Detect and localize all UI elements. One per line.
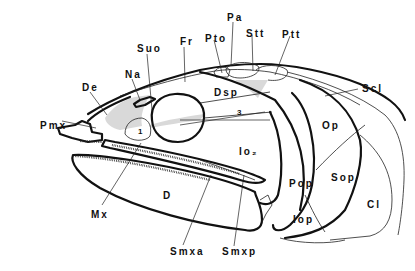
label-smxa: Smxa bbox=[170, 247, 205, 257]
iop-lower bbox=[280, 238, 345, 243]
io2-posterior-edge bbox=[260, 112, 281, 204]
fish-skull-diagram: Pmx De Na Suo Fr Pto Pa Stt Ptt Scl Dsp … bbox=[0, 0, 415, 271]
leader-pa bbox=[231, 22, 233, 66]
frontal-lower-line bbox=[120, 69, 360, 105]
leader-stt bbox=[252, 35, 253, 71]
label-suo: Suo bbox=[137, 44, 162, 54]
leader-fr bbox=[184, 47, 185, 82]
leader-smxa bbox=[183, 175, 211, 245]
label-iop: Iop bbox=[293, 215, 314, 225]
label-3: 3 bbox=[237, 109, 241, 117]
label-sop: Sop bbox=[331, 173, 356, 183]
label-smxp: Smxp bbox=[222, 247, 257, 257]
label-1: 1 bbox=[138, 128, 142, 136]
label-de: De bbox=[82, 83, 99, 93]
label-pa: Pa bbox=[227, 13, 243, 23]
label-pop: Pop bbox=[289, 179, 314, 189]
label-fr: Fr bbox=[180, 37, 194, 47]
label-dsp: Dsp bbox=[214, 88, 239, 98]
preopercle-outline bbox=[273, 93, 314, 230]
posttemporal bbox=[256, 66, 288, 81]
label-pmx: Pmx bbox=[40, 121, 67, 131]
label-op: Op bbox=[322, 121, 340, 131]
leader-mx bbox=[102, 143, 141, 205]
label-pto: Pto bbox=[205, 34, 227, 44]
leader-ptt bbox=[275, 36, 290, 75]
stipple-orbit bbox=[150, 114, 205, 128]
label-cl: Cl bbox=[367, 200, 381, 210]
label-mx: Mx bbox=[91, 210, 109, 220]
dentary-teeth bbox=[75, 156, 210, 180]
label-ptt: Ptt bbox=[282, 30, 301, 40]
label-d: D bbox=[163, 191, 172, 201]
label-na: Na bbox=[125, 70, 142, 80]
label-scl: Scl bbox=[362, 84, 383, 94]
label-stt: Stt bbox=[246, 29, 265, 39]
label-io2: Io₂ bbox=[239, 147, 258, 157]
